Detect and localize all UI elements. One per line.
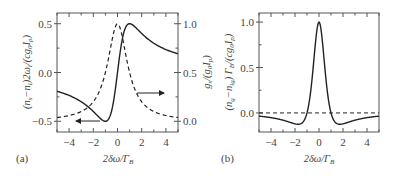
svg-text:1.0: 1.0 [240,16,254,28]
panel-a: −4−2024 −0.50.00.5 0.00.51.0 (ns−nl)2ωl/… [16,13,214,166]
svg-text:0.0: 0.0 [38,67,52,79]
svg-text:4: 4 [364,136,370,148]
svg-text:0: 0 [115,136,121,148]
plot-a-right-y-ticks: 0.00.51.0 [174,18,197,128]
panel-b-label: (b) [221,152,234,165]
plot-a-x-axis-label: 2δω/ΓB [103,153,134,166]
dispersion-curve [57,24,178,122]
plot-b-y-axis-label: (ng−nlg) ΓB/(cg0Ip) [223,33,236,110]
plot-a-x-ticks: −4−2024 [57,13,178,148]
panel-a-label: (a) [16,152,29,165]
svg-text:−2: −2 [87,136,99,148]
svg-text:0.5: 0.5 [240,62,254,74]
svg-text:−4: −4 [63,136,75,148]
plot-b-x-axis-label: 2δω/ΓB [304,153,335,166]
svg-text:0.5: 0.5 [183,67,197,79]
svg-text:−4: −4 [265,136,277,148]
plot-b-x-ticks: −4−2024 [259,13,379,148]
plot-b-y-ticks: 0.00.51.0 [240,16,263,119]
svg-text:2: 2 [139,136,145,148]
plot-b-frame [259,13,379,132]
svg-text:0.5: 0.5 [38,18,52,30]
panel-b: −4−2024 0.00.51.0 (ng−nlg) ΓB/(cg0Ip) 2δ… [221,13,379,166]
svg-text:4: 4 [163,136,169,148]
svg-text:1.0: 1.0 [183,18,197,30]
group-index-curve [259,22,379,124]
svg-text:2: 2 [340,136,346,148]
svg-text:0.0: 0.0 [183,115,197,127]
plot-a-left-y-axis-label: (ns−nl)2ωl/(cg0Ip) [21,34,34,109]
svg-text:−2: −2 [289,136,301,148]
svg-text:0: 0 [316,136,322,148]
svg-text:0.0: 0.0 [240,107,254,119]
figure: −4−2024 −0.50.00.5 0.00.51.0 (ns−nl)2ωl/… [0,0,395,176]
plot-a-right-y-axis-label: gs/(g0Ip) [201,55,214,89]
svg-text:−0.5: −0.5 [32,115,52,127]
